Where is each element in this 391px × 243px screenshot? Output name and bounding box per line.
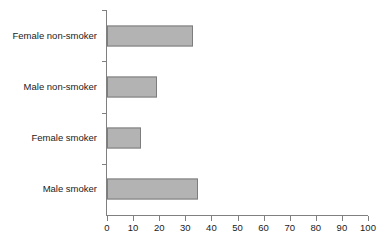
x-axis-tick bbox=[368, 216, 369, 221]
x-axis-tick bbox=[211, 216, 212, 221]
y-axis-tick bbox=[102, 61, 107, 62]
x-axis-tick-label: 30 bbox=[180, 223, 191, 233]
x-axis-tick-label: 20 bbox=[154, 223, 165, 233]
x-axis-tick bbox=[159, 216, 160, 221]
y-axis-tick bbox=[102, 10, 107, 11]
bar-male-non-smoker bbox=[107, 76, 157, 97]
bar-female-smoker bbox=[107, 128, 141, 149]
x-axis-tick-label: 0 bbox=[104, 223, 109, 233]
x-axis-tick bbox=[342, 216, 343, 221]
x-axis-tick-label: 70 bbox=[284, 223, 295, 233]
x-axis-tick-label: 50 bbox=[232, 223, 243, 233]
x-axis-tick-label: 90 bbox=[337, 223, 348, 233]
x-axis-tick bbox=[107, 216, 108, 221]
bar-male-smoker bbox=[107, 179, 198, 200]
bar-chart: Female non-smokerMale non-smokerFemale s… bbox=[0, 0, 391, 243]
x-axis-tick bbox=[238, 216, 239, 221]
x-axis-tick bbox=[264, 216, 265, 221]
x-axis-tick-label: 80 bbox=[311, 223, 322, 233]
category-label: Male non-smoker bbox=[24, 82, 97, 92]
x-axis-tick-label: 60 bbox=[258, 223, 269, 233]
x-axis-tick bbox=[316, 216, 317, 221]
category-label: Female non-smoker bbox=[13, 31, 97, 41]
category-label: Female smoker bbox=[32, 133, 97, 143]
category-label: Male smoker bbox=[43, 185, 97, 195]
x-axis-tick-label: 40 bbox=[206, 223, 217, 233]
bar-female-non-smoker bbox=[107, 25, 193, 46]
x-axis-tick bbox=[185, 216, 186, 221]
y-axis-tick bbox=[102, 164, 107, 165]
x-axis-tick-label: 10 bbox=[128, 223, 139, 233]
x-axis-tick bbox=[133, 216, 134, 221]
x-axis-tick-label: 100 bbox=[360, 223, 376, 233]
y-axis-tick bbox=[102, 113, 107, 114]
x-axis-tick bbox=[290, 216, 291, 221]
